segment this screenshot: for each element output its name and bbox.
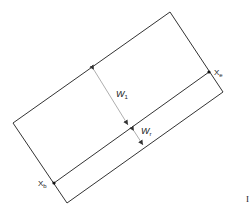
label-wr: Wr	[141, 126, 152, 137]
outer-rectangle	[13, 12, 223, 203]
divider-line	[54, 72, 209, 183]
edge-mark: I	[246, 194, 249, 204]
label-w1: W1	[116, 89, 129, 100]
point-xb	[52, 181, 55, 184]
label-xb: Xb	[38, 179, 47, 189]
label-xe: Xe	[214, 68, 223, 78]
diagram-canvas: W1 Wr Xe Xb I	[0, 0, 250, 213]
point-xe	[207, 70, 210, 73]
